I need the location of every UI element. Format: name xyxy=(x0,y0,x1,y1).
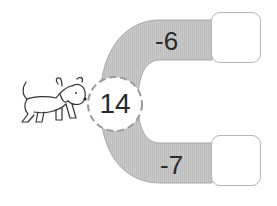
dog-icon xyxy=(22,78,87,122)
top-answer-box[interactable] xyxy=(211,12,261,63)
top-operation-label: -6 xyxy=(155,28,178,54)
subtraction-puzzle: 14 -6 -7 xyxy=(0,0,277,206)
bottom-operation-label: -7 xyxy=(160,152,183,178)
start-value: 14 xyxy=(88,90,142,118)
bottom-answer-box[interactable] xyxy=(211,135,261,186)
